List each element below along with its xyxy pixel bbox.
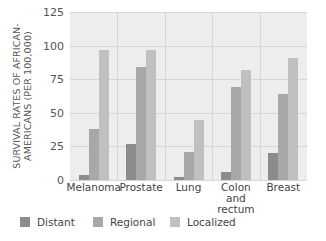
- y-tick-label: 50: [34, 106, 64, 119]
- y-tick-label: 100: [34, 39, 64, 52]
- y-axis-label-line-1: SURVIVAL RATES OF AFRICAN-: [11, 12, 22, 180]
- bar-distant: [79, 175, 89, 180]
- bar-distant: [174, 177, 184, 180]
- bar-regional: [136, 67, 146, 180]
- bar-localized: [288, 58, 298, 180]
- gridline-vertical: [212, 12, 213, 180]
- y-axis-label: SURVIVAL RATES OF AFRICAN- AMERICANS (PE…: [11, 12, 33, 180]
- y-tick-label: 125: [34, 6, 64, 19]
- bar-localized: [99, 50, 109, 180]
- gridline-horizontal: [70, 46, 307, 47]
- legend-swatch: [170, 217, 180, 227]
- bar-regional: [231, 87, 241, 180]
- legend-label: Regional: [110, 216, 155, 228]
- legend-swatch: [20, 217, 30, 227]
- y-tick-label: 0: [34, 174, 64, 187]
- bar-distant: [268, 153, 278, 180]
- y-axis-label-container: SURVIVAL RATES OF AFRICAN- AMERICANS (PE…: [0, 12, 44, 180]
- bar-regional: [89, 129, 99, 180]
- y-tick-label: 25: [34, 140, 64, 153]
- legend-swatch: [93, 217, 103, 227]
- bar-distant: [126, 144, 136, 180]
- gridline-vertical: [117, 12, 118, 180]
- gridline-vertical: [165, 12, 166, 180]
- bar-localized: [146, 50, 156, 180]
- x-tick-label: Breast: [253, 182, 313, 193]
- bar-regional: [278, 94, 288, 180]
- legend-label: Localized: [187, 216, 236, 228]
- plot-area: [70, 12, 307, 180]
- y-tick-label: 75: [34, 73, 64, 86]
- legend-item-distant: Distant: [20, 216, 75, 228]
- legend-item-regional: Regional: [93, 216, 155, 228]
- legend-item-localized: Localized: [170, 216, 236, 228]
- bar-regional: [184, 152, 194, 180]
- bar-distant: [221, 172, 231, 180]
- y-axis-label-line-2: AMERICANS (PER 100,000): [22, 12, 33, 180]
- gridline-vertical: [260, 12, 261, 180]
- bar-localized: [194, 120, 204, 180]
- bar-localized: [241, 70, 251, 180]
- legend-label: Distant: [37, 216, 75, 228]
- gridline-horizontal: [70, 12, 307, 13]
